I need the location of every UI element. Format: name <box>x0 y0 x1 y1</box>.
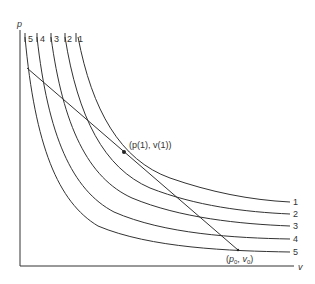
top-label-2: 2 <box>67 34 72 44</box>
top-label-4: 4 <box>40 34 45 44</box>
x-axis-label: v <box>298 262 303 272</box>
point-label-p0-v0: (p0, v0) <box>226 254 253 265</box>
right-label-4: 4 <box>293 234 298 244</box>
y-axis-label: p <box>16 19 22 29</box>
curve-2 <box>65 37 290 214</box>
curve-right-labels: 1 2 3 4 5 <box>293 197 298 257</box>
point-p0-v0 <box>237 249 239 251</box>
curve-3 <box>51 37 290 226</box>
top-label-3: 3 <box>54 34 59 44</box>
right-label-1: 1 <box>293 197 298 207</box>
chord-line <box>27 68 238 250</box>
isotherm-diagram: p v 5 4 3 2 1 1 2 3 4 5 (p(1), v(1)) (p0… <box>0 0 315 284</box>
point-p1-v1 <box>122 150 126 154</box>
right-label-2: 2 <box>293 209 298 219</box>
curve-top-labels: 5 4 3 2 1 <box>25 33 83 44</box>
curve-1 <box>78 37 290 202</box>
right-label-5: 5 <box>293 247 298 257</box>
top-label-5: 5 <box>28 34 33 44</box>
top-label-1: 1 <box>78 34 83 44</box>
point-label-p1-v1: (p(1), v(1)) <box>129 140 172 150</box>
right-label-3: 3 <box>293 221 298 231</box>
